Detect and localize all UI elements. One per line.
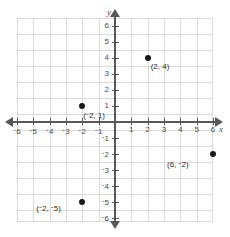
x-axis-arrow-left-icon (5, 117, 13, 127)
plotted-point (79, 103, 85, 109)
plotted-point (79, 199, 85, 205)
plotted-point-label: (-2, -5) (36, 203, 61, 213)
x-axis-tick-label: -2 (79, 126, 86, 136)
y-axis-tick-label: 5 (105, 38, 109, 46)
y-axis-tick (112, 170, 119, 171)
negative-sign: - (102, 148, 105, 157)
negative-sign: - (62, 125, 65, 134)
y-axis-tick-label: -2 (102, 149, 109, 159)
y-axis-arrow-up-icon (110, 9, 120, 17)
x-axis-tick-label: 6 (211, 126, 215, 134)
x-axis-tick (17, 118, 18, 125)
x-axis-tick-label: 2 (145, 126, 149, 134)
x-axis-label: x (219, 125, 223, 134)
y-axis-tick-label: -6 (102, 213, 109, 223)
x-axis-tick (180, 118, 181, 125)
x-axis-tick-label: -3 (62, 126, 69, 136)
y-axis-tick (112, 42, 119, 43)
y-axis-tick-label: -3 (102, 165, 109, 175)
y-axis-tick-label: 1 (105, 102, 109, 110)
x-axis-tick-label: -4 (46, 126, 53, 136)
negative-sign: - (102, 132, 105, 141)
y-axis-tick-label: -5 (102, 197, 109, 207)
y-axis-arrow-down-icon (110, 221, 120, 229)
x-axis-tick-label: 5 (194, 126, 198, 134)
plotted-point-label: (-2, 1) (83, 110, 105, 120)
y-axis-tick (112, 138, 119, 139)
y-axis-tick-label: 3 (105, 70, 109, 78)
y-axis-tick (112, 202, 119, 203)
y-axis-tick-label: 2 (105, 86, 109, 94)
negative-sign: - (179, 158, 182, 167)
negative-sign: - (30, 125, 33, 134)
x-axis-tick-label: -5 (30, 126, 37, 136)
y-axis-tick (112, 74, 119, 75)
y-axis-tick (112, 154, 119, 155)
y-axis-tick (112, 218, 119, 219)
y-axis-tick (112, 58, 119, 59)
y-axis-tick (112, 106, 119, 107)
x-axis-tick (50, 118, 51, 125)
coordinate-plane-figure: x y -6-5-4-3-2-1123456654321-1-2-3-4-5-6… (0, 0, 230, 237)
negative-sign: - (13, 125, 16, 134)
negative-sign: - (86, 109, 89, 118)
y-axis-label: y (107, 8, 111, 17)
negative-sign: - (102, 196, 105, 205)
x-axis-tick-label: -6 (13, 126, 20, 136)
plotted-point (145, 55, 151, 61)
negative-sign: - (79, 125, 82, 134)
negative-sign: - (102, 180, 105, 189)
negative-sign: - (51, 202, 54, 211)
plotted-point-label: (2, 4) (151, 63, 170, 71)
y-axis-tick-label: 6 (105, 22, 109, 30)
x-axis-tick (66, 118, 67, 125)
negative-sign: - (102, 164, 105, 173)
y-axis-tick-label: -1 (102, 133, 109, 143)
y-axis-tick (112, 90, 119, 91)
negative-sign: - (39, 202, 42, 211)
negative-sign: - (46, 125, 49, 134)
y-axis (114, 14, 116, 224)
x-axis-tick (197, 118, 198, 125)
x-axis-tick (131, 118, 132, 125)
x-axis-tick-label: 4 (178, 126, 182, 134)
y-axis-tick (112, 26, 119, 27)
plotted-point-label: (6, -2) (167, 159, 189, 169)
negative-sign: - (95, 125, 98, 134)
y-axis-tick (112, 186, 119, 187)
x-axis-tick (213, 118, 214, 125)
x-axis-tick (33, 118, 34, 125)
x-axis-tick (164, 118, 165, 125)
x-axis-tick-label: 3 (162, 126, 166, 134)
y-axis-tick-label: 4 (105, 54, 109, 62)
plotted-point (210, 151, 216, 157)
negative-sign: - (102, 212, 105, 221)
y-axis-tick-label: -4 (102, 181, 109, 191)
x-axis-tick-label: 1 (129, 126, 133, 134)
x-axis-tick (148, 118, 149, 125)
